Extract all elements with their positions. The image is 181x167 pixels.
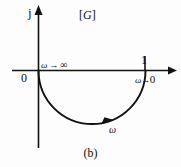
- omega-to-zero-annotation: ω→0: [135, 74, 155, 85]
- nyquist-plot-figure: j [G] ω → ∞ 1 0 ω→0 ω (b): [0, 0, 181, 167]
- omega-symbol-infinity: ω: [41, 60, 47, 70]
- omega-to-infinity-annotation: ω → ∞: [41, 60, 68, 70]
- plane-label-symbol: G: [83, 8, 92, 22]
- figure-caption: (b): [0, 146, 181, 161]
- infinity-symbol: ∞: [60, 59, 67, 70]
- curve-omega-label: ω: [109, 125, 116, 135]
- arrow-right-icon-infinity: →: [50, 60, 59, 70]
- nyquist-locus-curve: [39, 71, 146, 125]
- imaginary-axis-label: j: [28, 6, 32, 19]
- origin-label: 0: [21, 72, 27, 84]
- real-axis-arrowhead: [168, 67, 177, 75]
- unit-tick-label: 1: [141, 54, 147, 66]
- imaginary-axis-arrowhead: [35, 5, 43, 15]
- zero-limit-symbol: 0: [150, 73, 156, 85]
- plane-label-bracket-close: ]: [92, 8, 96, 22]
- plane-label: [G]: [79, 9, 96, 21]
- arrow-right-icon-zero: →: [141, 75, 150, 85]
